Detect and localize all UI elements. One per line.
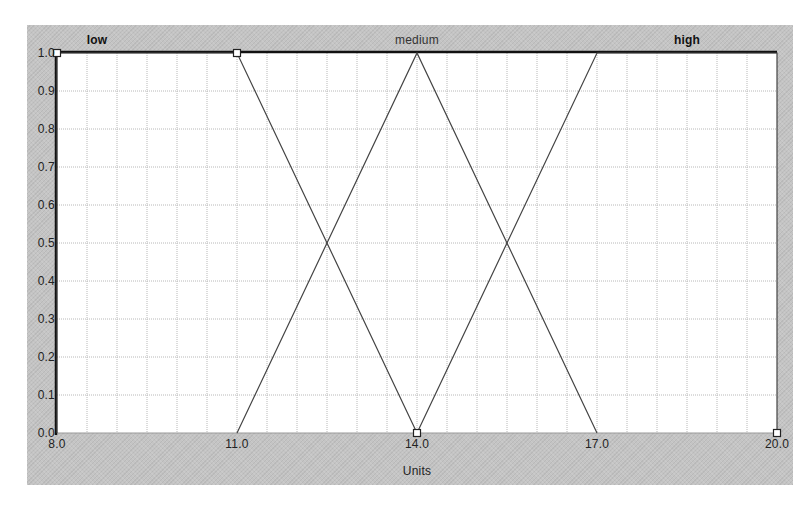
x-tick-label: 17.0 (585, 437, 609, 451)
x-tick-label: 11.0 (225, 437, 248, 451)
x-tick-label: 14.0 (405, 437, 429, 451)
y-tick-label: 0.9 (27, 84, 55, 98)
control-point-handle (774, 430, 781, 437)
y-tick-label: 0.7 (27, 160, 55, 174)
y-tick-label: 0.1 (27, 388, 55, 402)
set-label-high: high (674, 33, 700, 47)
y-tick-label: 0.8 (27, 122, 55, 136)
x-axis-title: Units (403, 464, 431, 478)
y-tick-label: 0.6 (27, 198, 55, 212)
y-tick-label: 0.3 (27, 312, 55, 326)
control-point-handle (234, 50, 241, 57)
set-label-medium: medium (395, 33, 439, 47)
y-tick-label: 0.5 (27, 236, 55, 250)
x-tick-label: 20.0 (765, 437, 789, 451)
y-tick-label: 0.2 (27, 350, 55, 364)
y-tick-label: 1.0 (27, 46, 55, 60)
y-tick-label: 0.4 (27, 274, 55, 288)
control-point-handle (414, 430, 421, 437)
x-tick-label: 8.0 (48, 437, 65, 451)
set-label-low: low (87, 33, 108, 47)
